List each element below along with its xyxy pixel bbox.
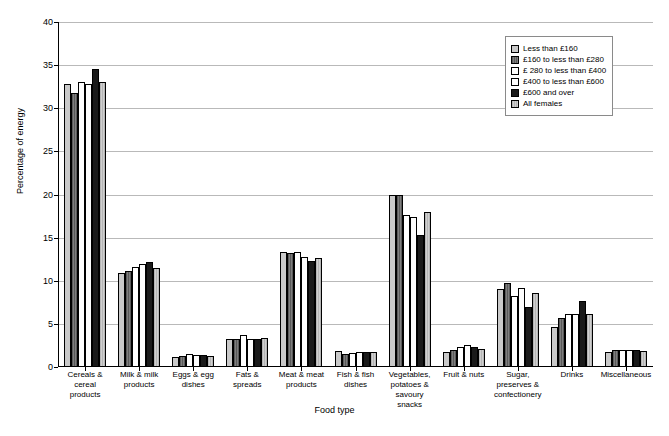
bar-group <box>220 22 274 367</box>
bar-group <box>112 22 166 367</box>
bar <box>247 339 254 367</box>
bar <box>525 307 532 367</box>
bar <box>315 258 322 367</box>
bar-group <box>437 22 491 367</box>
legend-item: All females <box>511 99 606 108</box>
y-axis-tick-mark <box>54 367 58 368</box>
y-axis-tick-label: 25 <box>43 147 53 156</box>
y-axis-line <box>58 22 59 367</box>
bar <box>633 350 640 367</box>
x-axis-category-label: Eggs & eggdishes <box>166 370 220 410</box>
bar-group <box>383 22 437 367</box>
bar <box>464 345 471 367</box>
legend-item: £160 to less than £280 <box>511 55 606 64</box>
bar <box>572 314 579 367</box>
bar <box>349 353 356 367</box>
x-axis-category-labels: Cereals &cerealproductsMilk & milkproduc… <box>58 370 653 410</box>
bar <box>363 352 370 367</box>
bar <box>308 261 315 367</box>
x-axis-category-label: Vegetables,potatoes &savourysnacks <box>383 370 437 410</box>
bar <box>396 195 403 367</box>
y-axis-tick-label: 5 <box>48 319 53 328</box>
legend-swatch <box>511 45 519 53</box>
legend-label: £600 and over <box>523 88 574 97</box>
bar <box>226 339 233 367</box>
bar <box>261 338 268 367</box>
bar <box>132 267 139 367</box>
x-axis-line <box>58 366 653 367</box>
y-axis-label: Percentage of energy <box>15 107 25 193</box>
bar <box>64 84 71 367</box>
chart-figure: Percentage of energy 0510152025303540 Ce… <box>0 0 669 436</box>
y-axis-tick-label: 30 <box>43 104 53 113</box>
bar <box>280 252 287 367</box>
bar-group <box>166 22 220 367</box>
bar <box>612 350 619 367</box>
x-axis-category-label: Fats &spreads <box>220 370 274 410</box>
bar <box>92 69 99 367</box>
x-axis-label: Food type <box>0 405 669 415</box>
legend-swatch <box>511 67 519 75</box>
legend-label: £400 to less than £600 <box>523 77 604 86</box>
bar-group <box>58 22 112 367</box>
legend-item: Less than £160 <box>511 44 606 53</box>
legend-swatch <box>511 100 519 108</box>
x-axis-category-label: Meat & meatproducts <box>274 370 328 410</box>
bar <box>457 347 464 367</box>
bar <box>551 327 558 367</box>
bar <box>118 273 125 367</box>
bar <box>424 212 431 367</box>
x-axis-category-label: Drinks <box>545 370 599 410</box>
bar <box>497 289 504 367</box>
bar <box>78 82 85 367</box>
bar <box>301 257 308 367</box>
bar <box>370 352 377 367</box>
bar <box>71 93 78 367</box>
bar <box>450 350 457 367</box>
x-axis-category-label: Fish & fishdishes <box>328 370 382 410</box>
y-axis-tick-label: 40 <box>43 18 53 27</box>
legend-swatch <box>511 56 519 64</box>
bar <box>478 349 485 367</box>
x-axis-category-label: Fruit & nuts <box>437 370 491 410</box>
bar <box>233 339 240 367</box>
bar <box>125 271 132 367</box>
bar <box>389 195 396 368</box>
bar-group <box>274 22 328 367</box>
bar <box>626 350 633 367</box>
bar <box>146 262 153 367</box>
bar <box>443 352 450 367</box>
legend-label: £ 280 to less than £400 <box>523 66 606 75</box>
y-axis-tick-label: 20 <box>43 190 53 199</box>
legend-item: £600 and over <box>511 88 606 97</box>
bar <box>417 235 424 367</box>
bar <box>153 268 160 367</box>
legend-label: £160 to less than £280 <box>523 55 604 64</box>
y-axis-tick-label: 10 <box>43 276 53 285</box>
legend-item: £400 to less than £600 <box>511 77 606 86</box>
bar <box>254 339 261 367</box>
y-axis-tick-label: 35 <box>43 61 53 70</box>
y-axis-tick-label: 0 <box>48 363 53 372</box>
bar <box>504 283 511 367</box>
bar <box>579 301 586 367</box>
bar <box>287 253 294 367</box>
bar <box>511 296 518 367</box>
bar <box>335 351 342 367</box>
bar <box>356 352 363 367</box>
bar <box>619 350 626 367</box>
bar <box>99 82 106 367</box>
bar <box>532 293 539 367</box>
bar-group <box>328 22 382 367</box>
bar <box>640 351 647 367</box>
bar <box>605 352 612 367</box>
bar <box>85 84 92 367</box>
bar <box>518 288 525 367</box>
bar <box>403 215 410 367</box>
legend-label: All females <box>523 99 562 108</box>
legend-swatch <box>511 89 519 97</box>
bar <box>471 347 478 367</box>
bar <box>586 314 593 367</box>
bar <box>410 217 417 367</box>
bar <box>139 264 146 367</box>
